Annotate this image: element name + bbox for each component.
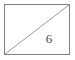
- figure-canvas: [0, 0, 75, 60]
- diagonal-line: [5, 5, 70, 55]
- geometry-figure: 6: [0, 0, 75, 60]
- diagonal-length-label: 6: [42, 31, 56, 47]
